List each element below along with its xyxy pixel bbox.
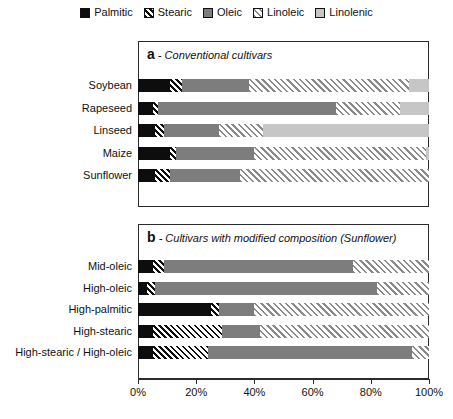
bar-row [138,79,429,92]
bar-segment-oleic [170,169,240,182]
legend-swatch-stearic-icon [144,8,154,18]
bar-segment-oleic [176,147,255,160]
bar-row [138,124,429,137]
stacked-bar [138,260,429,273]
axis-spine [429,379,430,380]
bar-segment-palmitic [138,147,170,160]
category-label: High-palmitic [0,304,132,315]
stacked-bar [138,169,429,182]
stacked-bar [138,79,429,92]
legend-item-oleic: Oleic [203,7,242,18]
bar-segment-oleic [208,346,412,359]
stacked-bar [138,346,429,359]
legend-label-linoleic: Linoleic [267,7,304,18]
legend-swatch-oleic-icon [203,8,213,18]
bar-segment-oleic [155,282,376,295]
bar-segment-linoleic [412,346,429,359]
legend-label-palmitic: Palmitic [94,7,133,18]
panel-a-title: a - Conventional cultivars [147,46,272,62]
x-axis-tick-label: 60% [288,387,338,398]
bar-row [138,303,429,316]
bar-segment-stearic [155,169,170,182]
bar-segment-linolenic [426,147,429,160]
bar-segment-linolenic [409,79,429,92]
bar-segment-palmitic [138,282,147,295]
category-label: Mid-oleic [0,261,132,272]
x-axis-tick-label: 80% [346,387,396,398]
panel-b-marker: b [147,229,156,245]
category-label: High-oleic [0,283,132,294]
stacked-bar [138,124,429,137]
bar-segment-linolenic [400,102,429,115]
bar-segment-linoleic [249,79,409,92]
panel-a: a - Conventional cultivars [138,41,429,207]
bar-segment-stearic [211,303,220,316]
x-axis-tick [254,379,255,384]
panel-b-plot [138,260,429,378]
bar-row [138,260,429,273]
stacked-bar [138,147,429,160]
bar-segment-oleic [222,325,260,338]
bar-segment-palmitic [138,303,211,316]
bar-segment-palmitic [138,346,153,359]
bar-segment-stearic [153,325,223,338]
stacked-bar [138,282,429,295]
panel-a-subtitle: - Conventional cultivars [158,49,272,61]
category-label: High-stearic / High-oleic [0,347,132,358]
legend-swatch-linolenic-icon [315,8,325,18]
panel-a-marker: a [147,46,155,62]
stacked-bar [138,303,429,316]
bar-segment-linoleic [240,169,429,182]
legend-item-linoleic: Linoleic [253,7,304,18]
bar-segment-linoleic [219,124,263,137]
panel-b-subtitle: - Cultivars with modified composition (S… [159,232,397,244]
bar-row [138,282,429,295]
panel-b: b - Cultivars with modified composition … [138,224,429,379]
bar-segment-linolenic [263,124,429,137]
panel-b-title: b - Cultivars with modified composition … [147,229,396,245]
x-axis-tick [371,379,372,384]
x-axis-tick-label: 20% [171,387,221,398]
bar-segment-oleic [158,102,336,115]
x-axis-line [138,379,430,380]
category-label: Rapeseed [0,103,132,114]
bar-segment-palmitic [138,325,153,338]
bar-segment-palmitic [138,124,155,137]
category-label: Linseed [0,125,132,136]
stacked-bar [138,102,429,115]
bar-segment-linoleic [336,102,400,115]
x-axis-tick-label: 0% [113,387,163,398]
category-label: Soybean [0,80,132,91]
legend-item-stearic: Stearic [144,7,192,18]
legend-swatch-linoleic-icon [253,8,263,18]
bar-segment-linoleic [353,260,429,273]
bar-segment-oleic [182,79,249,92]
bar-row [138,147,429,160]
stacked-bar [138,325,429,338]
bar-segment-stearic [155,124,164,137]
legend-label-linolenic: Linolenic [329,7,372,18]
bar-segment-stearic [170,79,182,92]
x-axis-tick-label: 40% [229,387,279,398]
bar-segment-palmitic [138,102,153,115]
bar-segment-stearic [153,260,165,273]
bar-segment-oleic [219,303,254,316]
chart-legend: PalmiticStearicOleicLinoleicLinolenic [0,7,453,18]
legend-swatch-palmitic-icon [80,8,90,18]
bar-segment-stearic [153,346,208,359]
bar-row [138,102,429,115]
legend-item-linolenic: Linolenic [315,7,372,18]
bar-row [138,169,429,182]
legend-label-stearic: Stearic [158,7,192,18]
bar-segment-oleic [164,124,219,137]
legend-item-palmitic: Palmitic [80,7,133,18]
x-axis-tick [196,379,197,384]
bar-segment-linoleic [254,303,429,316]
bar-row [138,346,429,359]
category-label: High-stearic [0,326,132,337]
category-label: Maize [0,148,132,159]
legend-label-oleic: Oleic [217,7,242,18]
bar-segment-palmitic [138,79,170,92]
bar-row [138,325,429,338]
category-label: Sunflower [0,170,132,181]
